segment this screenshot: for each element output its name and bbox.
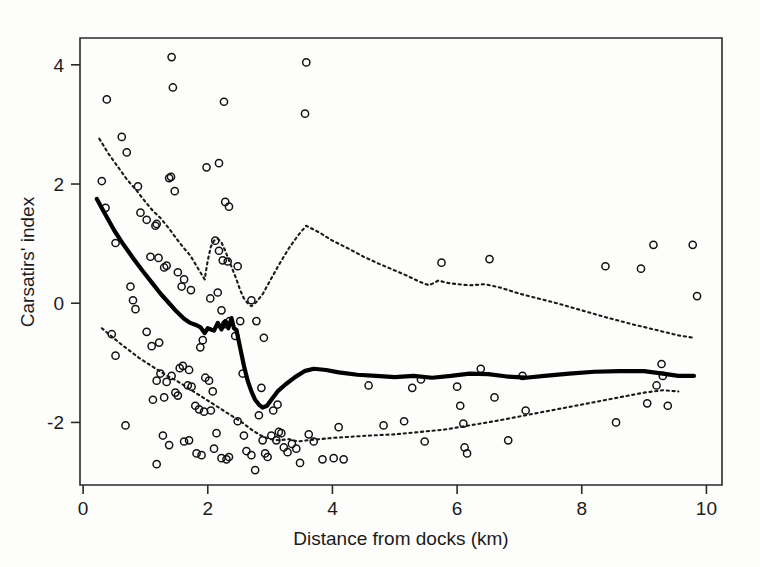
x-tick-label: 6 bbox=[452, 498, 463, 519]
scatter-point bbox=[237, 318, 244, 325]
scatter-point bbox=[209, 388, 216, 395]
scatter-point bbox=[293, 445, 300, 452]
scatter-point bbox=[248, 297, 255, 304]
scatter-point bbox=[301, 110, 308, 117]
scatter-point bbox=[213, 430, 220, 437]
scatter-point bbox=[112, 352, 119, 359]
scatter-point bbox=[637, 265, 644, 272]
scatter-point bbox=[284, 449, 291, 456]
scatter-point bbox=[215, 160, 222, 167]
scatter-point bbox=[207, 295, 214, 302]
scatter-point bbox=[340, 456, 347, 463]
scatter-point bbox=[112, 239, 119, 246]
scatter-point bbox=[248, 452, 255, 459]
scatter-point bbox=[296, 459, 303, 466]
scatter-point bbox=[602, 263, 609, 270]
scatter-point bbox=[505, 437, 512, 444]
upper-confidence-band-line bbox=[99, 139, 694, 338]
scatter-point bbox=[127, 283, 134, 290]
scatter-point bbox=[123, 149, 130, 156]
scatter-point bbox=[156, 339, 163, 346]
figure-container: 0246810 -2024 Distance from docks (km) C… bbox=[0, 0, 760, 567]
scatter-point bbox=[180, 438, 187, 445]
scatter-point bbox=[319, 456, 326, 463]
y-axis-title: Carsatirs' index bbox=[17, 196, 38, 327]
scatter-point bbox=[522, 407, 529, 414]
y-tick-label: 0 bbox=[53, 293, 64, 314]
scatter-point bbox=[178, 283, 185, 290]
scatter-point bbox=[103, 96, 110, 103]
scatter-point bbox=[258, 384, 265, 391]
scatter-point bbox=[137, 209, 144, 216]
fitted-curve-line bbox=[97, 199, 694, 408]
scatter-point bbox=[185, 437, 192, 444]
scatter-point bbox=[409, 384, 416, 391]
scatter-point bbox=[457, 402, 464, 409]
upper-confidence-band-path bbox=[99, 139, 694, 338]
scatter-point bbox=[187, 287, 194, 294]
scatter-point bbox=[255, 412, 262, 419]
scatter-point bbox=[380, 422, 387, 429]
scatter-point bbox=[219, 257, 226, 264]
scatter-point bbox=[215, 247, 222, 254]
scatter-point bbox=[252, 467, 259, 474]
scatter-point bbox=[197, 344, 204, 351]
scatter-point bbox=[214, 289, 221, 296]
scatter-point bbox=[148, 343, 155, 350]
scatter-point bbox=[174, 269, 181, 276]
scatter-point bbox=[118, 133, 125, 140]
scatter-point bbox=[203, 164, 210, 171]
scatter-point bbox=[689, 241, 696, 248]
scatter-point bbox=[274, 401, 281, 408]
scatter-point bbox=[129, 297, 136, 304]
scatter-point bbox=[335, 424, 342, 431]
x-tick-label: 2 bbox=[202, 498, 213, 519]
scatter-point bbox=[222, 198, 229, 205]
scatter-point bbox=[421, 438, 428, 445]
x-tick-label: 0 bbox=[78, 498, 89, 519]
y-tick-label: 4 bbox=[53, 55, 64, 76]
scatter-point bbox=[134, 183, 141, 190]
scatter-point bbox=[225, 203, 232, 210]
scatter-points-layer bbox=[98, 53, 700, 473]
scatter-point bbox=[401, 418, 408, 425]
scatter-point bbox=[653, 382, 660, 389]
x-axis-title: Distance from docks (km) bbox=[293, 528, 508, 549]
scatter-point bbox=[180, 276, 187, 283]
scatter-point bbox=[168, 53, 175, 60]
scatter-point bbox=[305, 431, 312, 438]
scatter-point bbox=[644, 400, 651, 407]
scatter-point bbox=[210, 445, 217, 452]
scatter-point bbox=[453, 383, 460, 390]
scatter-point bbox=[612, 419, 619, 426]
scatter-point bbox=[486, 256, 493, 263]
scatter-point bbox=[149, 396, 156, 403]
scatter-point bbox=[477, 365, 484, 372]
scatter-point bbox=[491, 394, 498, 401]
scatter-point bbox=[303, 59, 310, 66]
scatter-point bbox=[260, 334, 267, 341]
plot-frame bbox=[80, 38, 722, 485]
scatter-point bbox=[98, 177, 105, 184]
x-tick-label: 4 bbox=[327, 498, 338, 519]
scatter-point bbox=[159, 432, 166, 439]
scatter-point bbox=[132, 306, 139, 313]
scatter-point bbox=[207, 407, 214, 414]
scatter-point bbox=[143, 216, 150, 223]
scatter-point bbox=[220, 98, 227, 105]
scatter-point bbox=[143, 328, 150, 335]
x-axis-tick-labels: 0246810 bbox=[78, 498, 717, 519]
scatter-point bbox=[330, 455, 337, 462]
scatter-point bbox=[166, 441, 173, 448]
scatter-point bbox=[122, 422, 129, 429]
y-axis-tick-marks bbox=[71, 65, 80, 423]
scatter-point bbox=[693, 292, 700, 299]
y-tick-label: -2 bbox=[47, 412, 64, 433]
scatter-point bbox=[218, 455, 225, 462]
scatter-point bbox=[650, 241, 657, 248]
scatter-point bbox=[234, 263, 241, 270]
scatter-point bbox=[169, 84, 176, 91]
scatter-point bbox=[147, 253, 154, 260]
y-tick-label: 2 bbox=[53, 174, 64, 195]
x-tick-label: 10 bbox=[696, 498, 717, 519]
